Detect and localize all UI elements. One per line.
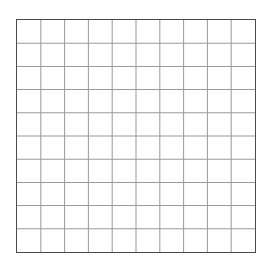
grid-board: [16, 19, 256, 253]
canvas: [0, 0, 272, 259]
grid-lines: [17, 20, 255, 252]
